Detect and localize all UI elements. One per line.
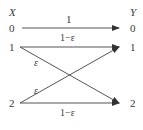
- input-symbol-0: 0: [9, 22, 15, 34]
- label-1-to-1: 1−ε: [60, 32, 75, 43]
- label-2-to-2: 1−ε: [60, 107, 75, 118]
- output-symbol-1: 1: [130, 41, 136, 53]
- output-symbol-2: 2: [130, 97, 136, 109]
- label-2-to-1: ε: [34, 85, 38, 96]
- output-symbol-0: 0: [130, 22, 136, 34]
- input-symbol-1: 1: [9, 41, 15, 53]
- output-alphabet-label: Y: [130, 6, 138, 18]
- channel-diagram: X Y 0 1 2 0 1 2 1 1−ε ε ε 1−ε: [0, 0, 143, 130]
- label-0-to-0: 1: [66, 13, 72, 25]
- input-alphabet-label: X: [8, 6, 17, 18]
- input-symbol-2: 2: [9, 97, 15, 109]
- label-1-to-2: ε: [34, 57, 38, 68]
